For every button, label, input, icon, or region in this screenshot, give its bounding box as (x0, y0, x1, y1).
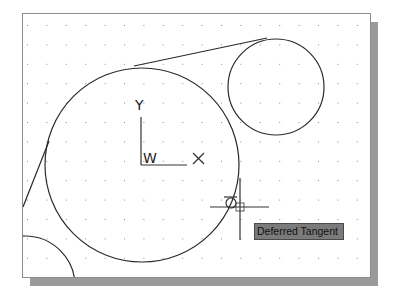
tangent-snap-marker-icon (224, 197, 237, 208)
osnap-tooltip: Deferred Tangent (254, 223, 344, 240)
ucs-w-label: W (143, 151, 157, 165)
corner-arc-entity[interactable] (23, 236, 75, 277)
ucs-y-label: Y (135, 98, 144, 112)
drawing-canvas[interactable]: Y W Deferred Tangent (22, 13, 371, 278)
small-circle-entity[interactable] (228, 39, 324, 135)
tangent-line-top[interactable] (134, 38, 267, 66)
